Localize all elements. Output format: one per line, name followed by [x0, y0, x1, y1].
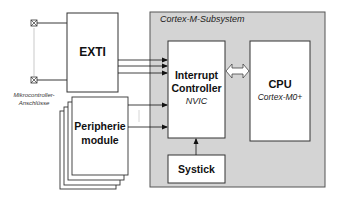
peripherals-label-line2: module — [72, 133, 128, 147]
pin-connector-icon — [31, 20, 37, 26]
pins-label: Mikrocontroller- Anschlüsse — [4, 91, 64, 107]
systick-label: Systick — [168, 163, 225, 175]
nvic-title-line2: Controller — [168, 82, 225, 95]
pin-connector-icon — [31, 77, 37, 83]
peripherals-label: Peripherie module — [72, 119, 128, 147]
pins-label-line1: Mikrocontroller- — [4, 91, 64, 99]
nvic-subtitle: NVIC — [168, 95, 225, 108]
cpu-subtitle: Cortex-M0+ — [250, 91, 310, 104]
peripherals-label-line1: Peripherie — [72, 119, 128, 133]
cpu-title: CPU — [250, 78, 310, 91]
subsystem-label: Cortex-M-Subsystem — [160, 14, 245, 24]
interrupt-controller-label: Interrupt Controller NVIC — [168, 69, 225, 108]
pins-label-line2: Anschlüsse — [4, 99, 64, 107]
cpu-label: CPU Cortex-M0+ — [250, 78, 310, 104]
nvic-title-line1: Interrupt — [168, 69, 225, 82]
exti-label: EXTI — [67, 45, 118, 59]
